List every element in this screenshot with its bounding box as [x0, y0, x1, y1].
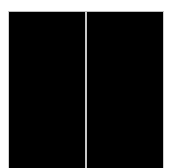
- left-panel: [9, 12, 85, 168]
- split-view-frame: [8, 11, 164, 168]
- right-panel: [87, 12, 163, 168]
